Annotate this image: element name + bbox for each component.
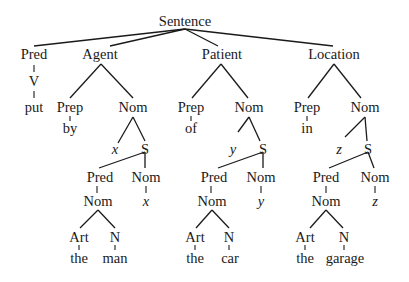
leaf-of: of [185, 120, 197, 136]
var-x: x [111, 141, 119, 157]
patient-subtree: Patient Prep of Nom y S Pred Nom Nom y A… [178, 46, 277, 266]
node-nom: Nom [198, 193, 228, 209]
leaf-by: by [63, 120, 78, 136]
node-art: Art [295, 229, 314, 245]
var-x: x [142, 193, 150, 209]
node-art: Art [185, 229, 204, 245]
var-y: y [228, 141, 237, 157]
node-art: Art [69, 229, 88, 245]
node-nom: Nom [119, 99, 149, 115]
node-nom: Nom [132, 169, 162, 185]
node-pred: Pred [21, 46, 48, 62]
node-sentence: Sentence [159, 13, 211, 29]
var-y: y [256, 193, 265, 209]
leaf-the: the [186, 250, 204, 266]
node-s: S [364, 141, 372, 157]
var-z: z [371, 193, 378, 209]
node-prep: Prep [57, 99, 84, 115]
root-edges [34, 29, 333, 46]
leaf-the: the [296, 250, 314, 266]
node-pred: Pred [87, 169, 114, 185]
leaf-man: man [103, 250, 129, 266]
location-subtree: Location Prep in Nom z S Pred Nom Nom z … [294, 46, 391, 266]
agent-subtree: Agent Prep by Nom x S Pred Nom Nom x Art… [57, 46, 162, 266]
node-prep: Prep [178, 99, 205, 115]
node-nom: Nom [351, 99, 381, 115]
node-patient: Patient [202, 46, 242, 62]
node-prep: Prep [294, 99, 321, 115]
node-n: N [224, 229, 235, 245]
node-v: V [29, 73, 40, 89]
node-location: Location [308, 46, 360, 62]
node-agent: Agent [82, 46, 117, 62]
var-z: z [335, 141, 342, 157]
node-nom: Nom [361, 169, 391, 185]
node-pred: Pred [201, 169, 228, 185]
leaf-put: put [25, 99, 44, 115]
leaf-car: car [221, 250, 239, 266]
leaf-in: in [301, 120, 313, 136]
node-n: N [339, 229, 350, 245]
node-nom: Nom [84, 193, 114, 209]
node-nom: Nom [235, 99, 265, 115]
leaf-garage: garage [326, 250, 365, 266]
node-pred: Pred [313, 169, 340, 185]
syntax-tree-diagram: Sentence Pred V put Agent Prep by Nom x … [0, 0, 409, 282]
leaf-the: the [70, 250, 88, 266]
node-nom: Nom [247, 169, 277, 185]
node-n: N [110, 229, 121, 245]
node-nom: Nom [312, 193, 342, 209]
